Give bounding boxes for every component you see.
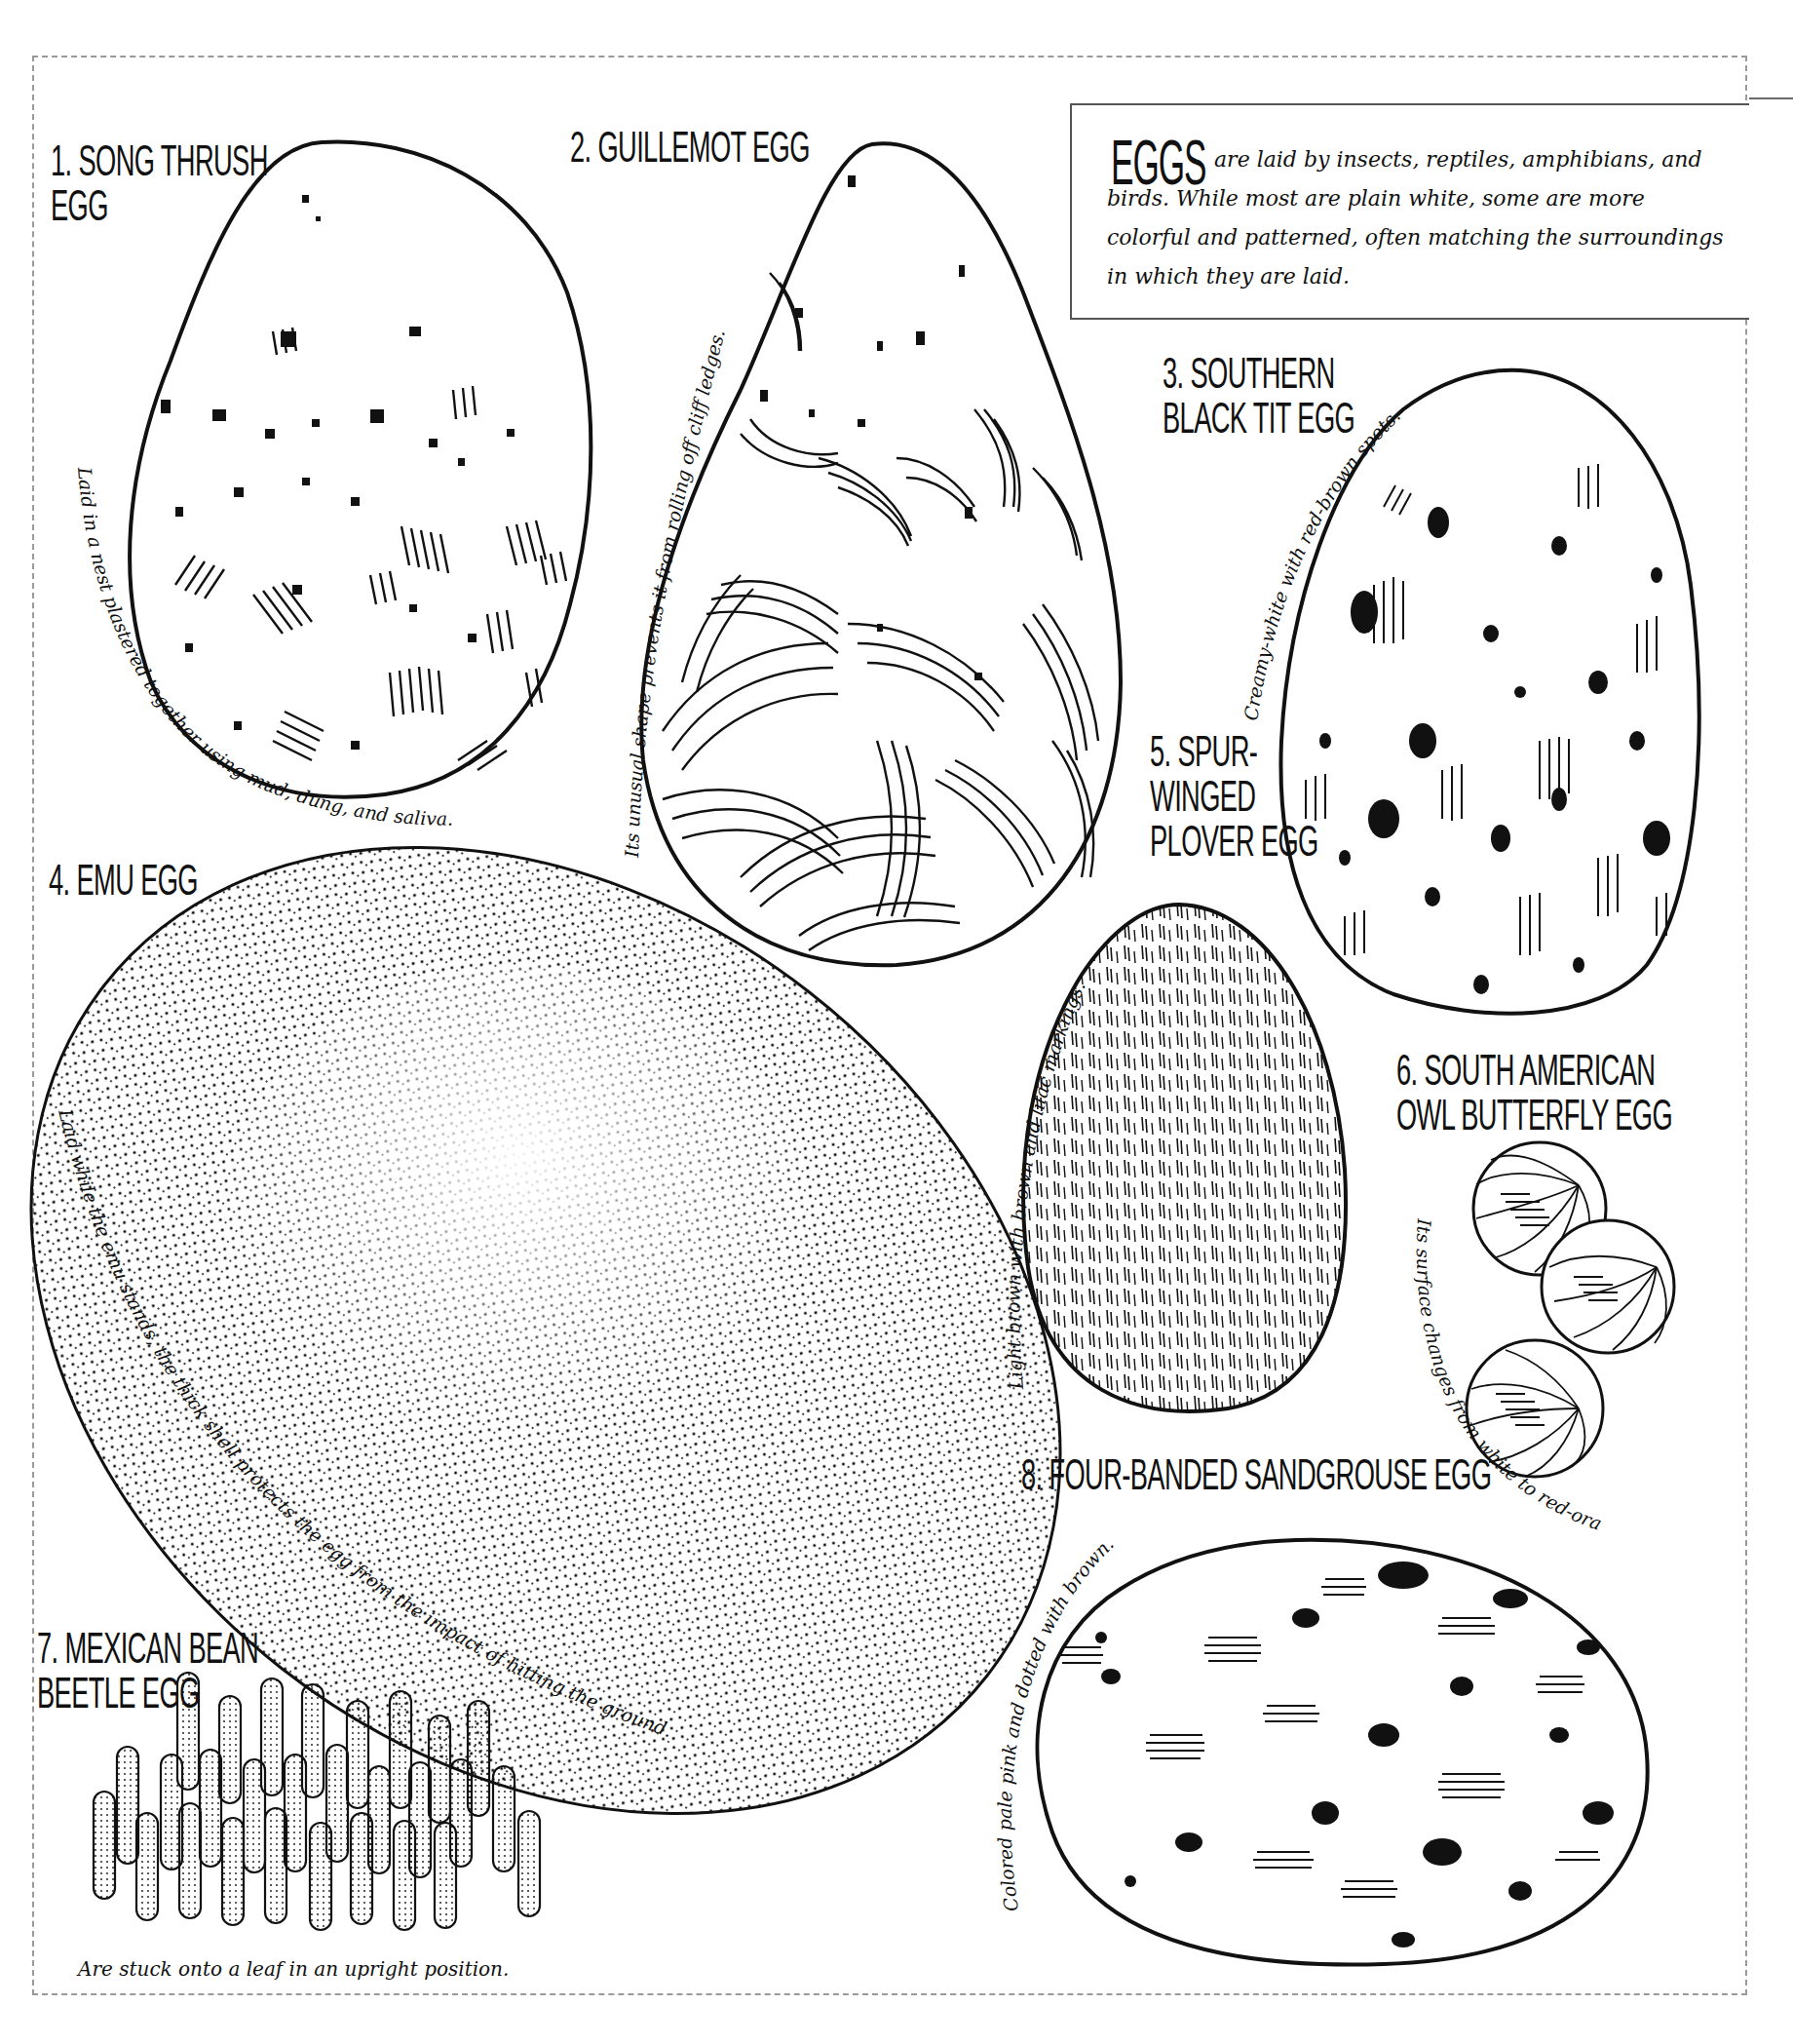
label-line: beetle egg — [37, 1671, 258, 1716]
intro-text: are laid by insects, reptiles, amphibian… — [1107, 140, 1731, 296]
mexican-bean-beetle-caption: Are stuck onto a leaf in an upright posi… — [78, 1957, 509, 1981]
label-line: plover egg — [1150, 819, 1318, 864]
label-sandgrouse: 8. Four-banded sandgrouse egg — [1021, 1452, 1491, 1497]
label-owl-butterfly: 6. South American owl butterfly egg — [1396, 1048, 1672, 1138]
label-emu: 4. Emu egg — [49, 858, 198, 903]
owl-butterfly-eggs — [1467, 1142, 1674, 1477]
egg-coloring-page: Laid in a nest plastered together using … — [0, 0, 1793, 2044]
label-spur-winged-plover: 5. Spur- winged plover egg — [1150, 729, 1318, 865]
song-thrush-egg — [130, 142, 591, 797]
label-line: owl butterfly egg — [1396, 1093, 1672, 1138]
four-banded-sandgrouse-egg — [1038, 1540, 1648, 1965]
label-song-thrush: 1. Song thrush egg — [51, 138, 268, 228]
label-line: 6. South American — [1396, 1048, 1672, 1093]
label-line: winged — [1150, 774, 1318, 819]
label-line: 3. Southern — [1163, 351, 1354, 396]
label-line: 2. Guillemot egg — [570, 125, 810, 170]
label-mexican-bean-beetle: 7. Mexican bean beetle egg — [37, 1626, 258, 1716]
label-line: 8. Four-banded sandgrouse egg — [1021, 1452, 1491, 1497]
label-line: 4. Emu egg — [49, 858, 198, 903]
label-line: black tit egg — [1163, 396, 1354, 441]
label-guillemot: 2. Guillemot egg — [570, 125, 810, 170]
label-southern-black-tit: 3. Southern black tit egg — [1163, 351, 1354, 441]
label-line: 5. Spur- — [1150, 729, 1318, 774]
label-line: egg — [51, 183, 268, 228]
label-line: 7. Mexican bean — [37, 1626, 258, 1671]
label-line: 1. Song thrush — [51, 138, 268, 183]
intro-box: EGGS are laid by insects, reptiles, amph… — [1070, 103, 1749, 320]
guillemot-egg — [641, 143, 1121, 965]
